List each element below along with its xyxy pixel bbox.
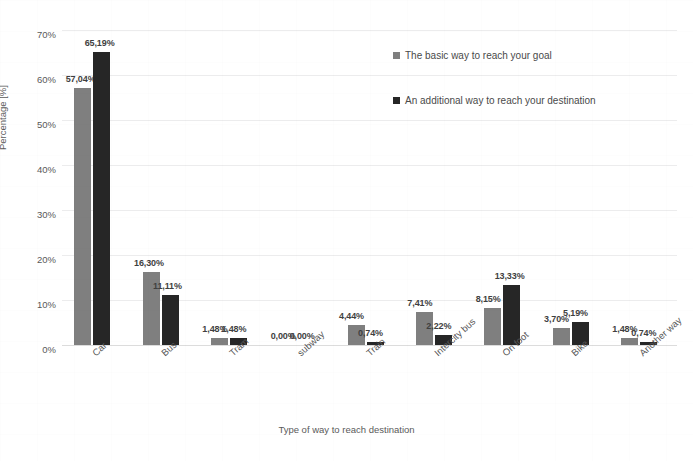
bar-value-label: 65,19% bbox=[85, 38, 115, 48]
bar-car-series-1 bbox=[93, 52, 110, 345]
y-axis-tick-text: 70% bbox=[37, 29, 56, 40]
legend-swatch-icon-series-1 bbox=[393, 97, 400, 104]
bar-car-series-0 bbox=[74, 88, 91, 345]
legend-item-additional-way: An additional way to reach your destinat… bbox=[393, 93, 596, 107]
bar-on-foot-series-0 bbox=[484, 308, 501, 345]
bar-value-label: 11,11% bbox=[153, 281, 182, 291]
y-axis-tick-text: 30% bbox=[37, 209, 56, 220]
y-axis-tick-text: 10% bbox=[37, 299, 56, 310]
bar-another-way-series-0 bbox=[621, 338, 638, 345]
bar-value-label: 1,48% bbox=[221, 324, 246, 334]
bar-value-label: 2,22% bbox=[426, 321, 451, 331]
legend-label-series-1: An additional way to reach your destinat… bbox=[405, 95, 596, 106]
y-axis-tick-text: 0% bbox=[42, 344, 56, 355]
bar-tram-series-0 bbox=[211, 338, 228, 345]
gridline-20% bbox=[62, 255, 677, 256]
bar-value-label: 4,44% bbox=[339, 311, 364, 321]
bar-bus-series-1 bbox=[162, 295, 179, 345]
y-axis-tick-label: 30% bbox=[0, 204, 56, 222]
legend-swatch-icon-series-0 bbox=[393, 52, 400, 59]
y-axis-tick-text: 50% bbox=[37, 119, 56, 130]
y-axis-tick-label: 20% bbox=[0, 249, 56, 267]
bar-value-label: 5,19% bbox=[563, 308, 588, 318]
y-axis-title: Percentage [%] bbox=[0, 85, 8, 150]
bar-value-label: 7,41% bbox=[407, 298, 432, 308]
y-axis-tick-text: 60% bbox=[37, 74, 56, 85]
bar-value-label: 13,33% bbox=[495, 271, 525, 281]
legend-label-series-0: The basic way to reach your goal bbox=[405, 50, 552, 61]
y-axis-tick-label: 40% bbox=[0, 159, 56, 177]
x-axis-title: Type of way to reach destination bbox=[0, 424, 693, 435]
bar-chart: 57,04%65,19%16,30%11,11%1,48%1,48%0,00%0… bbox=[0, 0, 693, 461]
y-axis-tick-text: 20% bbox=[37, 254, 56, 265]
bar-bike-series-0 bbox=[553, 328, 570, 345]
y-axis-tick-label: 10% bbox=[0, 294, 56, 312]
y-axis-tick-label: 60% bbox=[0, 69, 56, 87]
bar-value-label: 8,15% bbox=[476, 294, 501, 304]
gridline-70% bbox=[62, 30, 677, 31]
gridline-40% bbox=[62, 165, 677, 166]
gridline-30% bbox=[62, 210, 677, 211]
legend: The basic way to reach your goal An addi… bbox=[393, 48, 596, 138]
legend-item-basic-way: The basic way to reach your goal bbox=[393, 48, 596, 62]
y-axis-tick-text: 40% bbox=[37, 164, 56, 175]
y-axis-tick-label: 0% bbox=[0, 339, 56, 357]
bar-value-label: 16,30% bbox=[134, 258, 164, 268]
y-axis-tick-label: 50% bbox=[0, 114, 56, 132]
bar-value-label: 57,04% bbox=[66, 74, 96, 84]
y-axis-tick-label: 70% bbox=[0, 24, 56, 42]
